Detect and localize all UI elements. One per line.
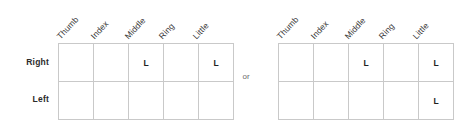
or-separator-label: or: [234, 72, 258, 81]
column-header-index-b: Index: [309, 9, 340, 41]
column-header-middle-b: Middle: [343, 9, 374, 41]
cell-left-index-b[interactable]: [314, 82, 349, 120]
column-headers-a: Thumb Index Middle Ring Little: [58, 0, 228, 43]
row-label-column-b: [258, 0, 278, 43]
cell-left-ring-b[interactable]: [384, 82, 419, 120]
cell-right-index-a[interactable]: [94, 44, 129, 82]
cell-right-ring-b[interactable]: [384, 44, 419, 82]
cell-left-little-a[interactable]: [199, 82, 234, 120]
finger-grid-option-a: Right Left Thumb Index Middle Ring Littl…: [0, 0, 234, 120]
cell-right-thumb-b[interactable]: [279, 44, 314, 82]
cell-right-index-b[interactable]: [314, 44, 349, 82]
cell-right-middle-a[interactable]: L: [129, 44, 164, 82]
column-header-little-b: Little: [411, 9, 442, 41]
cell-left-middle-b[interactable]: [349, 82, 384, 120]
column-header-index-a: Index: [89, 9, 120, 41]
cell-right-ring-a[interactable]: [164, 44, 199, 82]
table-block-b: Thumb Index Middle Ring Little L L: [278, 0, 454, 120]
cell-right-little-a[interactable]: L: [199, 44, 234, 82]
cell-left-little-b[interactable]: L: [419, 82, 454, 120]
cell-right-middle-b[interactable]: L: [349, 44, 384, 82]
finger-table-a: L L: [58, 43, 234, 120]
column-header-thumb-b: Thumb: [275, 9, 306, 41]
column-headers-b: Thumb Index Middle Ring Little: [278, 0, 448, 43]
cell-left-index-a[interactable]: [94, 82, 129, 120]
table-row: L: [279, 82, 454, 120]
table-block-a: Thumb Index Middle Ring Little L L: [58, 0, 234, 120]
column-header-ring-b: Ring: [377, 9, 408, 41]
finger-grid-option-b: Thumb Index Middle Ring Little L L: [258, 0, 454, 120]
table-row: [59, 82, 234, 120]
row-label-column-a: Right Left: [0, 0, 58, 117]
table-row: L L: [279, 44, 454, 82]
column-header-little-a: Little: [191, 9, 222, 41]
hand-finger-selection-diagram: Right Left Thumb Index Middle Ring Littl…: [0, 0, 473, 126]
cell-right-little-b[interactable]: L: [419, 44, 454, 82]
row-label-left-a: Left: [0, 80, 58, 117]
cell-left-ring-a[interactable]: [164, 82, 199, 120]
finger-table-b: L L L: [278, 43, 454, 120]
cell-right-thumb-a[interactable]: [59, 44, 94, 82]
cell-left-middle-a[interactable]: [129, 82, 164, 120]
column-header-ring-a: Ring: [157, 9, 188, 41]
table-row: L L: [59, 44, 234, 82]
cell-left-thumb-a[interactable]: [59, 82, 94, 120]
column-header-thumb-a: Thumb: [55, 9, 86, 41]
column-header-middle-a: Middle: [123, 9, 154, 41]
cell-left-thumb-b[interactable]: [279, 82, 314, 120]
row-label-right-a: Right: [0, 43, 58, 80]
